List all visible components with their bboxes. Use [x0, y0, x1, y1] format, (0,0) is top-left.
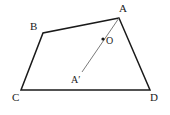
segment-aprime-to-a — [82, 18, 119, 72]
vertex-label-c: C — [12, 92, 19, 103]
point-label-o: O — [106, 36, 113, 46]
quadrilateral-abcd-outline — [21, 18, 150, 90]
geometry-figure: A B C D O A′ — [0, 0, 170, 115]
vertex-label-a: A — [119, 3, 127, 14]
figure-canvas — [0, 0, 170, 115]
vertex-label-b: B — [30, 21, 37, 32]
point-o-marker-dot — [101, 37, 104, 40]
vertex-label-d: D — [150, 92, 158, 103]
point-label-a-prime: A′ — [71, 75, 80, 85]
